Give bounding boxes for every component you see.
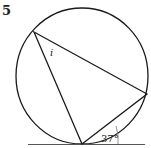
- circle-geometry-diagram: 5 i 37°: [0, 0, 151, 148]
- question-number: 5: [2, 3, 11, 18]
- circle: [16, 8, 148, 144]
- unknown-angle-label: i: [50, 47, 53, 58]
- angle-37-label: 37°: [101, 133, 119, 144]
